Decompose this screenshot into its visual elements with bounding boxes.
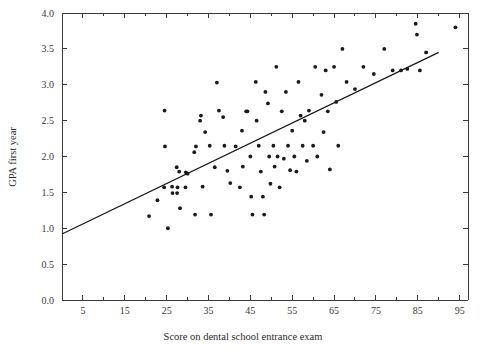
data-point <box>238 185 242 189</box>
y-axis-title: GPA first year <box>7 127 18 187</box>
data-point <box>213 165 217 169</box>
y-axis-ticks <box>62 13 468 300</box>
data-point <box>324 69 328 73</box>
svg-text:1.5: 1.5 <box>42 187 55 198</box>
data-point <box>405 67 409 71</box>
data-point <box>249 195 253 199</box>
data-point <box>262 213 266 217</box>
data-point <box>313 65 317 69</box>
data-point <box>278 185 282 189</box>
data-point <box>274 65 278 69</box>
svg-text:65: 65 <box>329 305 339 316</box>
data-point <box>372 72 376 76</box>
data-point <box>305 159 309 163</box>
svg-text:45: 45 <box>245 305 255 316</box>
data-point <box>240 129 244 133</box>
data-point <box>163 145 167 149</box>
svg-text:55: 55 <box>287 305 297 316</box>
svg-text:1.0: 1.0 <box>42 223 55 234</box>
svg-text:5: 5 <box>80 305 85 316</box>
data-point <box>184 185 188 189</box>
data-point <box>156 198 160 202</box>
data-point <box>299 114 303 118</box>
data-point <box>286 144 290 148</box>
data-point <box>259 170 263 174</box>
data-point <box>178 206 182 210</box>
data-point <box>177 170 181 174</box>
svg-text:75: 75 <box>371 305 381 316</box>
data-point <box>147 214 151 218</box>
data-point <box>282 157 286 161</box>
svg-text:2.5: 2.5 <box>42 115 55 126</box>
data-point <box>246 109 250 113</box>
data-point <box>186 172 190 176</box>
data-point <box>166 226 170 230</box>
data-point <box>234 145 238 149</box>
data-point <box>334 100 338 104</box>
data-point <box>288 168 292 172</box>
data-point <box>251 213 255 217</box>
data-point <box>382 47 386 51</box>
svg-text:0.5: 0.5 <box>42 259 55 270</box>
data-point <box>171 191 175 195</box>
data-point <box>322 130 326 134</box>
data-point <box>303 119 307 123</box>
data-point <box>276 155 280 159</box>
data-point <box>307 109 311 113</box>
data-point <box>415 33 419 37</box>
svg-text:35: 35 <box>203 305 213 316</box>
svg-text:0.0: 0.0 <box>42 295 55 306</box>
data-point <box>203 130 207 134</box>
data-point <box>336 144 340 148</box>
data-point <box>332 65 336 69</box>
data-point <box>399 69 403 73</box>
data-point <box>320 93 324 97</box>
svg-text:95: 95 <box>455 305 465 316</box>
data-point <box>217 109 221 113</box>
data-point <box>280 109 284 113</box>
data-point <box>284 90 288 94</box>
data-point <box>361 65 365 69</box>
svg-text:85: 85 <box>413 305 423 316</box>
regression-line <box>62 52 439 234</box>
data-point <box>257 144 261 148</box>
data-points-group <box>147 22 457 230</box>
data-point <box>269 182 273 186</box>
data-point <box>175 191 179 195</box>
data-point <box>162 185 166 189</box>
data-point <box>192 150 196 154</box>
data-point <box>424 51 428 55</box>
chart-canvas: 5152535455565758595 0.00.51.01.52.02.53.… <box>0 0 486 349</box>
data-point <box>198 119 202 123</box>
y-axis-tick-labels: 0.00.51.01.52.02.53.03.54.0 <box>42 8 55 306</box>
data-point <box>223 144 227 148</box>
svg-text:25: 25 <box>162 305 172 316</box>
scatter-plot-figure: 5152535455565758595 0.00.51.01.52.02.53.… <box>0 0 486 349</box>
data-point <box>345 80 349 84</box>
data-point <box>315 155 319 159</box>
data-point <box>209 213 213 217</box>
data-point <box>418 69 422 73</box>
data-point <box>241 165 245 169</box>
data-point <box>266 102 270 106</box>
data-point <box>170 185 174 189</box>
data-point <box>255 119 259 123</box>
data-point <box>301 144 305 148</box>
data-point <box>297 80 301 84</box>
data-point <box>267 155 271 159</box>
data-point <box>194 145 198 149</box>
data-point <box>414 22 418 26</box>
data-point <box>248 155 252 159</box>
data-point <box>254 80 258 84</box>
svg-text:3.0: 3.0 <box>42 79 55 90</box>
x-axis-major-ticks <box>83 13 460 300</box>
data-point <box>208 144 212 148</box>
svg-text:2.0: 2.0 <box>42 151 55 162</box>
data-point <box>273 165 277 169</box>
data-point <box>199 114 203 118</box>
data-point <box>391 69 395 73</box>
data-point <box>328 168 332 172</box>
data-point <box>264 90 268 94</box>
data-point <box>294 170 298 174</box>
data-point <box>221 115 225 119</box>
